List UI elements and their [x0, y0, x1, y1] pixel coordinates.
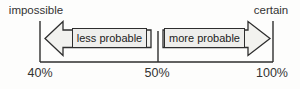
endpoint-label-certain: certain — [254, 4, 289, 16]
less-probable-label-box: less probable — [72, 28, 147, 48]
more-probable-label-box: more probable — [164, 28, 245, 48]
tick-label-40-percent: 40% — [27, 66, 52, 80]
probability-scale-diagram: impossible certain less probable more pr… — [0, 0, 300, 89]
tick-label-50-percent: 50% — [144, 66, 169, 80]
endpoint-label-impossible: impossible — [9, 4, 63, 16]
tick-label-100-percent: 100% — [256, 66, 288, 80]
